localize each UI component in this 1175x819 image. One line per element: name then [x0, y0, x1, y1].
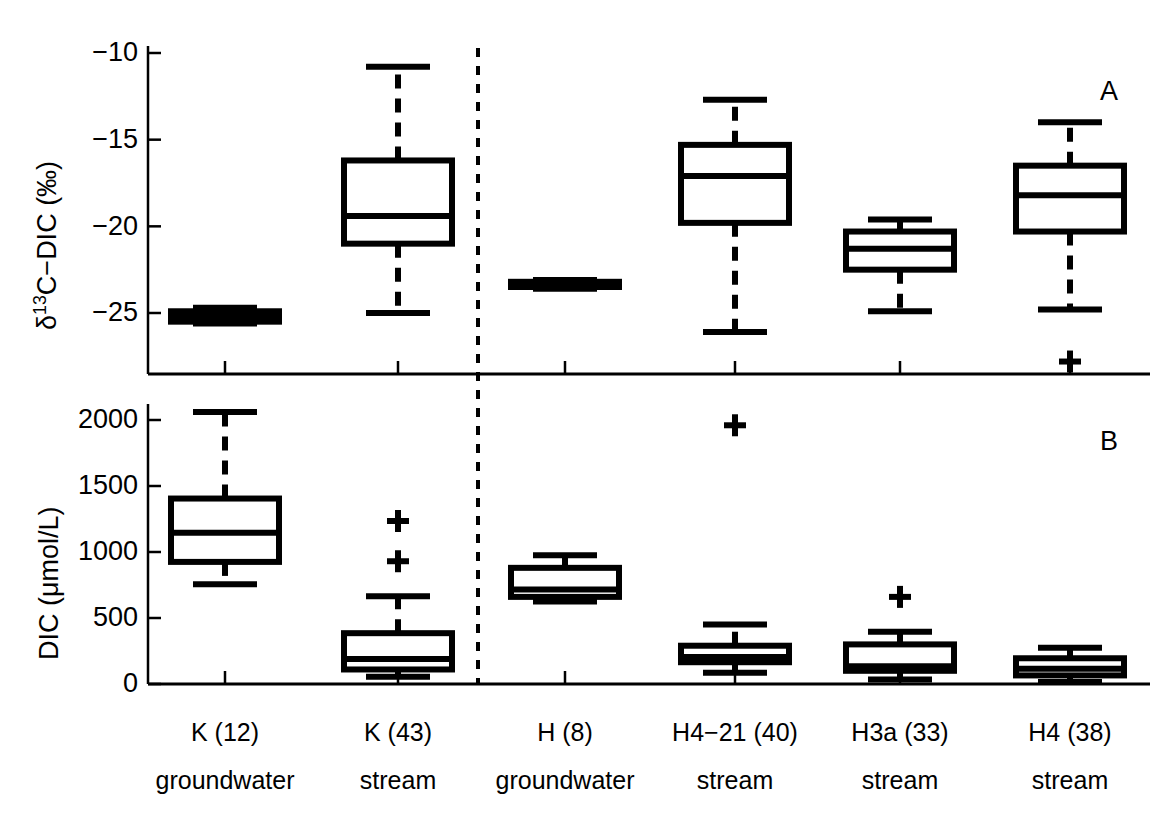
boxplot-b-5[interactable]: [1016, 648, 1124, 682]
boxplot-b-3[interactable]: [681, 414, 789, 673]
panel-b-plot-group: [148, 404, 1150, 684]
boxplot-a-3[interactable]: [681, 100, 789, 332]
boxplot-b-2[interactable]: [511, 555, 619, 601]
plot-canvas: [0, 0, 1175, 819]
box-iqr: [344, 633, 452, 669]
panel-a-plot-group: [148, 46, 1150, 374]
box-iqr: [1016, 166, 1124, 232]
boxplot-a-2[interactable]: [511, 280, 619, 289]
box-iqr: [681, 145, 789, 223]
boxplot-a-5[interactable]: [1016, 122, 1124, 372]
boxplot-b-4[interactable]: [846, 586, 954, 680]
box-iqr: [344, 160, 452, 243]
boxplot-a-1[interactable]: [344, 67, 452, 313]
boxplot-b-1[interactable]: [344, 510, 452, 677]
boxplot-figure: δ13C−DIC (‰) DIC (μmol/L) −10 −15 −20 −2…: [0, 0, 1175, 819]
boxplot-b-0[interactable]: [171, 412, 279, 584]
boxplot-a-0[interactable]: [171, 308, 279, 324]
boxplot-a-4[interactable]: [846, 219, 954, 311]
